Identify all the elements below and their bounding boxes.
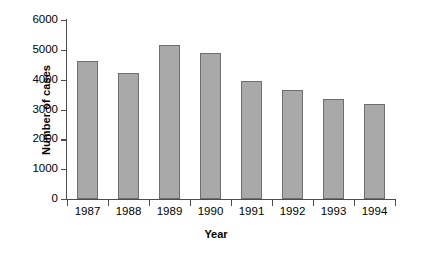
x-axis-tick-label: 1990 [188,206,234,218]
y-axis-tick-mark [61,50,67,51]
y-axis-tick-label: 3000 [24,104,58,116]
x-axis-tick-mark [395,200,396,206]
x-axis-tick-label: 1988 [106,206,152,218]
x-axis-tick-label: 1992 [270,206,316,218]
x-axis-tick-label: 1991 [229,206,275,218]
bar [77,61,98,199]
y-axis-tick-mark [61,80,67,81]
bar [159,45,180,199]
y-axis-tick-labels: 0100020003000400050006000 [22,0,58,253]
y-axis-tick-mark [61,139,67,140]
y-axis-tick-mark [61,110,67,111]
y-axis-tick-label: 2000 [24,133,58,145]
bar [364,104,385,199]
y-axis-tick-label: 4000 [24,74,58,86]
bar [241,81,262,199]
x-axis-title: Year [0,228,432,240]
bar [282,90,303,199]
bar [118,73,139,199]
plot-area [67,20,395,199]
x-axis-tick-label: 1989 [147,206,193,218]
y-axis-tick-label: 6000 [24,14,58,26]
y-axis-tick-label: 1000 [24,163,58,175]
bar [323,99,344,199]
bar [200,53,221,199]
x-axis-tick-label: 1993 [311,206,357,218]
x-axis-tick-label: 1994 [352,206,398,218]
y-axis-tick-mark [61,169,67,170]
y-axis-tick-label: 0 [24,193,58,205]
bar-chart: Number of cases 010002000300040005000600… [0,0,432,253]
y-axis-tick-mark [61,20,67,21]
y-axis-tick-label: 5000 [24,44,58,56]
x-axis-tick-label: 1987 [65,206,111,218]
